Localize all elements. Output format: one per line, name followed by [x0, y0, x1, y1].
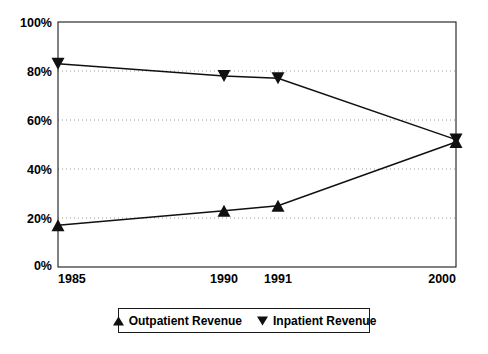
x-tick-label-2000: 2000	[428, 272, 456, 286]
triangle-down-icon	[256, 315, 269, 327]
x-tick-label-1985: 1985	[58, 272, 86, 286]
x-axis-tick-labels: 1985 1990 1991 2000	[58, 272, 456, 286]
y-tick-label-20: 20%	[27, 212, 52, 226]
line-chart-figure: 100% 80% 60% 40% 20% 0% 1985 1990 1991 2…	[0, 0, 488, 354]
triangle-up-icon	[112, 315, 125, 327]
x-tick-label-1990: 1990	[210, 272, 238, 286]
y-tick-label-80: 80%	[27, 65, 52, 79]
x-tick-label-1991: 1991	[264, 272, 292, 286]
legend-entry-inpatient-revenue: Inpatient Revenue	[256, 315, 376, 327]
legend-label-inpatient-revenue: Inpatient Revenue	[273, 315, 376, 327]
plot-frame	[58, 22, 456, 267]
y-tick-label-60: 60%	[27, 114, 52, 128]
legend-label-outpatient-revenue: Outpatient Revenue	[129, 315, 242, 327]
gridlines	[58, 71, 456, 218]
plot-area-svg: 100% 80% 60% 40% 20% 0% 1985 1990 1991 2…	[0, 0, 488, 354]
series-line-outpatient-revenue	[58, 142, 456, 225]
y-tick-label-40: 40%	[27, 163, 52, 177]
series-markers-inpatient-revenue	[52, 58, 463, 146]
y-tick-label-100: 100%	[20, 16, 52, 30]
series-line-inpatient-revenue	[58, 64, 456, 140]
y-axis-tick-labels: 100% 80% 60% 40% 20% 0%	[20, 16, 52, 273]
series-markers-outpatient-revenue	[52, 136, 463, 231]
y-tick-label-0: 0%	[34, 259, 52, 273]
chart-legend: Outpatient Revenue Inpatient Revenue	[118, 308, 370, 333]
legend-entry-outpatient-revenue: Outpatient Revenue	[112, 315, 242, 327]
